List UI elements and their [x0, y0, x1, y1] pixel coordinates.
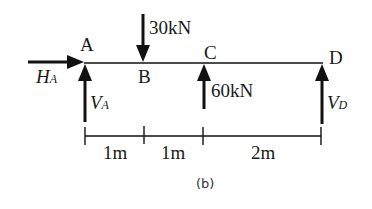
reaction-subscript: D [339, 98, 348, 112]
point-label-c: C [204, 43, 217, 62]
reaction-label-va: VA [90, 93, 109, 112]
dimension-label-bc: 1m [161, 143, 185, 162]
load-label-30kn: 30kN [149, 18, 191, 37]
figure-caption: (b) [196, 176, 214, 191]
point-label-b: B [138, 67, 151, 86]
reaction-label-vd: VD [327, 93, 347, 112]
reaction-symbol: V [90, 92, 102, 113]
point-label-d: D [329, 48, 343, 67]
load-arrow-30kn [136, 14, 150, 62]
dimension-label-ab: 1m [103, 143, 127, 162]
load-label-60kn: 60kN [211, 81, 253, 100]
reaction-subscript: A [102, 98, 109, 112]
reaction-symbol: V [327, 92, 339, 113]
dimension-label-cd: 2m [251, 143, 275, 162]
reaction-symbol: H [36, 66, 50, 87]
load-arrow-60kn [197, 64, 211, 109]
reaction-subscript: A [50, 72, 57, 86]
point-label-a: A [80, 35, 94, 54]
reaction-label-ha: HA [36, 67, 57, 86]
